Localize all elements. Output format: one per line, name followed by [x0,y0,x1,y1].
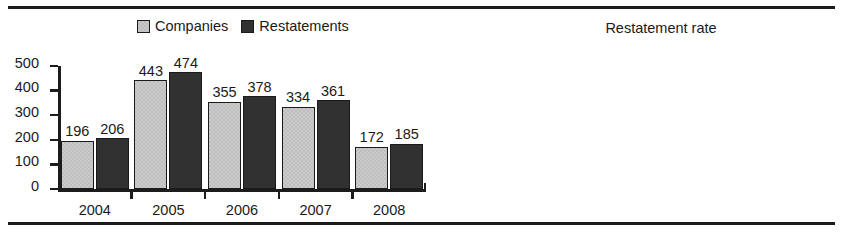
chart-legend: Companies Restatements [137,19,349,34]
bar-value-label: 334 [286,90,310,105]
bar-value-label: 185 [395,127,419,142]
x-axis-category-label: 2008 [373,203,405,218]
bar: 355 [208,102,241,189]
bar: 185 [390,144,423,190]
bar-value-label: 474 [174,56,198,71]
bar-value-label: 172 [360,130,384,145]
y-axis-tick: 500 [50,65,58,68]
counts-bar-chart: Companies Restatements 01002003004005002… [0,0,440,240]
restatement-rate-title: Restatement rate [440,21,842,36]
bar-value-label: 206 [100,122,124,137]
x-axis-category-label: 2007 [299,203,331,218]
legend-label-companies: Companies [155,19,228,34]
restatement-rate-bar-chart: Restatement rate 0%5%10%15%2004200520062… [440,0,842,240]
legend-item-restatements: Restatements [241,19,348,34]
bar: 443 [134,80,167,189]
bar: 206 [96,138,129,189]
legend-swatch-companies-icon [137,20,150,33]
bar-value-label: 443 [139,64,163,79]
bar: 378 [243,96,276,189]
y-axis-tick: 200 [50,139,58,142]
y-axis-tick: 0 [50,188,58,191]
bar-value-label: 361 [321,84,345,99]
bar-value-label: 196 [65,124,89,139]
y-axis-tick-label: 100 [15,154,39,169]
y-axis-tick: 100 [50,163,58,166]
x-axis-tick [130,191,133,199]
y-axis-tick-label: 400 [15,80,39,95]
legend-swatch-restatements-icon [241,20,254,33]
x-axis-category-label: 2004 [79,203,111,218]
counts-plot-area: 0100200300400500200420052006200720081964… [58,66,426,189]
bar: 361 [317,100,350,189]
bar: 474 [169,72,202,189]
legend-label-restatements: Restatements [259,19,348,34]
y-axis-tick-label: 300 [15,105,39,120]
y-axis-tick-label: 500 [15,56,39,71]
counts-x-axis-end-cap [424,183,427,192]
counts-x-axis [58,189,426,192]
x-axis-category-label: 2005 [152,203,184,218]
bar-value-label: 378 [247,80,271,95]
bar: 172 [355,147,388,189]
y-axis-tick-label: 200 [15,130,39,145]
y-axis-tick: 400 [50,89,58,92]
x-axis-category-label: 2006 [226,203,258,218]
bar: 334 [282,107,315,189]
bar-value-label: 355 [212,85,236,100]
y-axis-tick: 300 [50,114,58,117]
bar: 196 [61,141,94,189]
x-axis-tick [278,191,281,199]
y-axis-tick-label: 0 [31,179,39,194]
x-axis-tick [351,191,354,199]
x-axis-tick [204,191,207,199]
legend-item-companies: Companies [137,19,228,34]
